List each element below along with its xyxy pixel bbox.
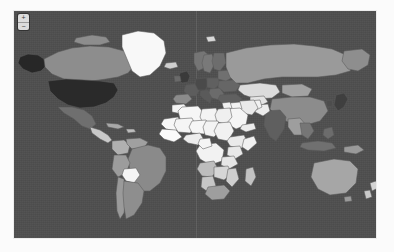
country-japan[interactable] (334, 93, 348, 111)
country-ireland[interactable] (174, 76, 181, 82)
country-mozambique[interactable] (226, 168, 239, 187)
map-page: + − (0, 0, 394, 252)
country-cuba[interactable] (106, 123, 124, 129)
country-hispaniola[interactable] (126, 129, 136, 133)
country-mongolia[interactable] (282, 84, 312, 97)
country-india[interactable] (264, 110, 286, 141)
country-papua-new-guinea[interactable] (344, 145, 364, 154)
world-map-viewport[interactable]: + − (14, 11, 376, 238)
country-indonesia[interactable] (300, 141, 336, 151)
country-united-states[interactable] (48, 79, 118, 108)
country-finland[interactable] (212, 53, 226, 71)
country-indochina[interactable] (300, 123, 314, 139)
country-alaska[interactable] (18, 54, 46, 73)
countries-layer[interactable] (14, 11, 376, 238)
country-philippines[interactable] (323, 127, 334, 139)
country-russia[interactable] (226, 44, 354, 83)
country-tasmania[interactable] (344, 196, 352, 202)
country-south-africa[interactable] (205, 185, 230, 200)
country-new-zealand[interactable] (370, 181, 376, 191)
country-mexico[interactable] (58, 107, 96, 129)
country-madagascar[interactable] (245, 167, 256, 186)
country-new-zealand-south[interactable] (364, 190, 372, 199)
zoom-in-button[interactable]: + (18, 14, 29, 22)
country-canada-arctic[interactable] (74, 35, 110, 45)
zoom-out-button[interactable]: − (18, 22, 29, 30)
country-canada[interactable] (44, 46, 134, 81)
country-central-america[interactable] (90, 127, 112, 143)
map-zoom-control[interactable]: + − (18, 14, 29, 30)
country-argentina[interactable] (123, 181, 144, 219)
country-australia[interactable] (311, 159, 358, 195)
country-iceland[interactable] (164, 62, 178, 69)
country-svalbard[interactable] (206, 36, 216, 42)
country-spain[interactable] (173, 94, 192, 104)
country-korea[interactable] (326, 100, 333, 107)
